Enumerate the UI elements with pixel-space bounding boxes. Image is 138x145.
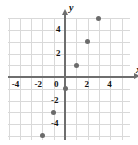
x-tick-label: -4 [12, 80, 20, 89]
data-point [51, 110, 56, 115]
grid-line-vertical [9, 19, 10, 140]
x-tick-label: 4 [107, 80, 112, 89]
grid-line-vertical [122, 19, 123, 140]
grid-line-vertical [20, 19, 21, 140]
grid-line-horizontal [8, 136, 130, 137]
x-tick-label: 2 [85, 80, 90, 89]
y-tick-label: -4 [51, 119, 59, 128]
grid-line-vertical [99, 19, 100, 140]
x-axis-label: x [136, 65, 138, 75]
y-axis-label: y [69, 3, 73, 13]
y-tick-label: -2 [51, 96, 59, 105]
y-tick-label: 4 [56, 25, 61, 34]
grid-line-vertical [42, 19, 43, 140]
coordinate-plane-chart: yx-4-202442-2-4 [0, 0, 138, 145]
y-axis-arrow-icon [62, 9, 68, 15]
x-tick-label: -2 [34, 80, 42, 89]
data-point [85, 39, 90, 44]
x-axis [8, 76, 134, 78]
grid-line-horizontal [8, 65, 130, 66]
grid-line-horizontal [8, 42, 130, 43]
data-point [63, 86, 68, 91]
data-point [74, 63, 79, 68]
grid-line-horizontal [8, 124, 130, 125]
grid-line-horizontal [8, 30, 130, 31]
grid-line-vertical [76, 19, 77, 140]
grid-line-horizontal [8, 54, 130, 55]
data-point [96, 16, 101, 21]
grid-line-vertical [31, 19, 32, 140]
grid-line-horizontal [8, 18, 130, 19]
x-tick-label: 0 [54, 80, 59, 89]
y-tick-label: 2 [56, 49, 61, 58]
grid-line-horizontal [8, 112, 130, 113]
data-point [40, 133, 45, 138]
grid-line-horizontal [8, 101, 130, 102]
